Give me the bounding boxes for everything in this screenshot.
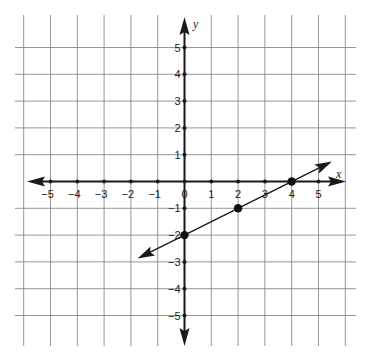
y-tick-label: 4 [174, 68, 180, 80]
data-point [180, 231, 188, 239]
y-tick-mark [183, 260, 187, 264]
line-start-arrow-icon [138, 246, 155, 258]
x-tick-mark [129, 180, 133, 184]
x-tick-mark [209, 180, 213, 184]
x-tick-label: 0 [181, 188, 187, 200]
y-tick-label: 2 [174, 122, 180, 134]
y-tick-mark [183, 46, 187, 50]
x-tick-label: −1 [148, 188, 161, 200]
y-tick-mark [183, 287, 187, 291]
y-tick-mark [183, 153, 187, 157]
x-tick-label: −3 [95, 188, 108, 200]
y-tick-label: 1 [174, 149, 180, 161]
x-tick-label: −5 [41, 188, 54, 200]
y-axis-label: y [192, 17, 199, 31]
x-tick-mark [317, 180, 321, 184]
y-tick-label: 5 [174, 42, 180, 54]
y-tick-label: −1 [168, 202, 181, 214]
y-tick-mark [183, 314, 187, 318]
y-tick-label: −2 [168, 229, 181, 241]
data-point [234, 204, 242, 212]
x-tick-mark [49, 180, 53, 184]
x-tick-mark [236, 180, 240, 184]
y-tick-label: −4 [168, 283, 181, 295]
x-axis-label: x [335, 167, 342, 181]
y-tick-label: −5 [168, 310, 181, 322]
x-tick-label: 5 [315, 188, 321, 200]
y-tick-label: −3 [168, 256, 181, 268]
y-tick-mark [183, 206, 187, 210]
x-tick-mark [75, 180, 79, 184]
x-tick-label: −4 [68, 188, 81, 200]
x-tick-label: 4 [289, 188, 295, 200]
data-point [288, 177, 296, 185]
x-tick-mark [102, 180, 106, 184]
origin-tick-mark [183, 180, 187, 184]
x-tick-label: 2 [235, 188, 241, 200]
x-tick-label: 1 [208, 188, 214, 200]
y-tick-mark [183, 126, 187, 130]
y-tick-mark [183, 72, 187, 76]
x-tick-mark [156, 180, 160, 184]
x-tick-mark [263, 180, 267, 184]
line-end-arrow-icon [314, 161, 331, 173]
y-tick-label: 3 [174, 95, 180, 107]
x-tick-label: −2 [122, 188, 135, 200]
coordinate-plane: −5−4−3−2−1012345−5−4−3−2−112345 x y [0, 0, 366, 359]
y-tick-mark [183, 99, 187, 103]
